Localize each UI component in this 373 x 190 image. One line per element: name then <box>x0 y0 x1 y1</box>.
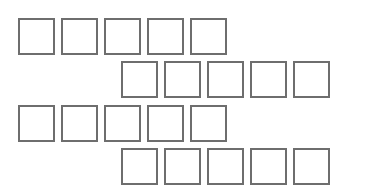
square-box <box>121 148 158 185</box>
square-box <box>104 105 141 142</box>
square-box <box>207 61 244 98</box>
row-4 <box>121 148 330 185</box>
square-box <box>18 105 55 142</box>
square-box <box>190 18 227 55</box>
square-box <box>147 105 184 142</box>
square-box <box>147 18 184 55</box>
square-box <box>61 18 98 55</box>
square-box <box>250 61 287 98</box>
row-1 <box>18 18 227 55</box>
square-box <box>293 148 330 185</box>
square-box <box>190 105 227 142</box>
square-box <box>293 61 330 98</box>
square-box <box>104 18 141 55</box>
row-3 <box>18 105 227 142</box>
square-box <box>61 105 98 142</box>
row-2 <box>121 61 330 98</box>
square-box <box>207 148 244 185</box>
square-box <box>164 148 201 185</box>
square-box <box>250 148 287 185</box>
square-box <box>164 61 201 98</box>
square-box <box>121 61 158 98</box>
square-box <box>18 18 55 55</box>
